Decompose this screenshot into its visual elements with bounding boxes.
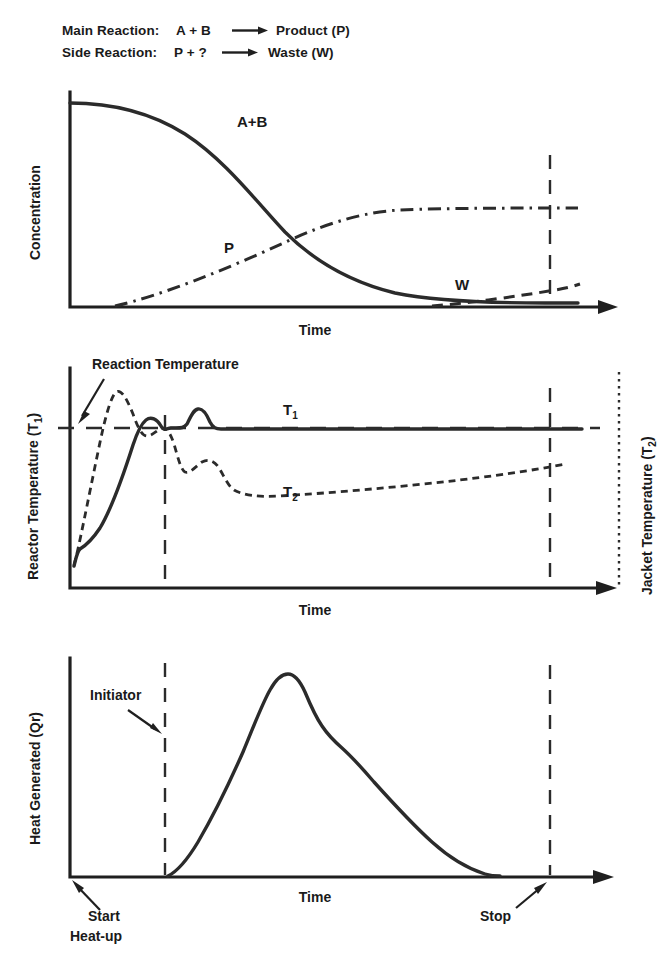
- heat-start-leader-arrow-icon: [72, 880, 100, 910]
- series-curve-t1: [74, 409, 582, 566]
- jacket-temp-label-base: Jacket Temperature (T: [639, 446, 655, 595]
- label-t1: T1: [283, 401, 298, 421]
- concentration-x-axis-title: Time: [299, 322, 332, 338]
- label-t2-sub: 2: [292, 492, 298, 503]
- chart-heat-generated: Heat Generated (Qr) Initiator Start Heat…: [27, 658, 614, 944]
- concentration-y-axis-title: Concentration: [27, 165, 43, 260]
- heat-initiator-callout: Initiator: [90, 687, 142, 703]
- temperature-x-axis-arrow-icon: [596, 581, 617, 595]
- label-t2-base: T: [283, 483, 292, 500]
- heat-stop-callout: Stop: [480, 908, 511, 924]
- chart-concentration: Concentration A+B P W Time: [27, 92, 618, 338]
- reaction-scheme-header: Main Reaction: A + B Product (P) Side Re…: [62, 23, 350, 60]
- svg-text:Reactor Temperature (T1): Reactor Temperature (T1): [25, 413, 44, 580]
- reactor-temp-label-base: Reactor Temperature (T: [25, 423, 41, 580]
- heat-y-axis-title: Heat Generated (Qr): [27, 712, 43, 845]
- heat-x-axis-title: Time: [299, 889, 332, 905]
- chart-temperature: Reactor Temperature (T1) Jacket Temperat…: [25, 356, 658, 618]
- svg-text:Jacket Temperature (T2): Jacket Temperature (T2): [639, 436, 658, 595]
- label-p: P: [224, 239, 234, 256]
- side-reaction-reactants: P + ?: [174, 45, 207, 60]
- heat-initiator-leader-arrow-icon: [128, 710, 162, 734]
- side-reaction-prefix: Side Reaction:: [62, 45, 157, 60]
- temperature-axes: [70, 368, 598, 588]
- temperature-x-axis-title: Time: [299, 602, 332, 618]
- heat-axes: [70, 658, 595, 877]
- concentration-axes: [70, 92, 600, 307]
- series-curve-a-plus-b: [70, 103, 578, 303]
- reaction-temperature-callout: Reaction Temperature: [92, 356, 239, 372]
- main-reaction-prefix: Main Reaction:: [62, 23, 159, 38]
- temperature-y-axis-title: Reactor Temperature (T1): [25, 413, 44, 580]
- heat-stop-leader-arrow-icon: [516, 882, 547, 908]
- label-w: W: [455, 276, 470, 293]
- heat-start-heatup-callout: Heat-up: [70, 928, 122, 944]
- label-t2: T2: [283, 483, 298, 503]
- side-reaction-arrow-icon: [222, 49, 258, 57]
- process-profiles-figure: Main Reaction: A + B Product (P) Side Re…: [0, 0, 664, 969]
- concentration-x-axis-arrow-icon: [598, 300, 618, 314]
- reactor-temp-label-close: ): [25, 413, 41, 418]
- temperature-y2-axis-title: Jacket Temperature (T2): [639, 436, 658, 595]
- label-a-plus-b: A+B: [237, 113, 268, 130]
- main-reaction-reactants: A + B: [176, 23, 211, 38]
- heat-start-callout: Start: [88, 908, 120, 924]
- main-reaction-product: Product (P): [276, 23, 350, 38]
- side-reaction-product: Waste (W): [268, 45, 334, 60]
- label-t1-base: T: [283, 401, 292, 418]
- series-curve-heat-generated: [168, 674, 500, 876]
- figure-root: Main Reaction: A + B Product (P) Side Re…: [0, 0, 664, 969]
- jacket-temp-label-close: ): [639, 436, 655, 441]
- series-curve-p: [115, 208, 578, 306]
- reaction-temperature-leader-arrow-icon: [78, 379, 104, 424]
- label-t1-sub: 1: [292, 410, 298, 421]
- heat-x-axis-arrow-icon: [593, 870, 614, 884]
- main-reaction-arrow-icon: [232, 27, 268, 35]
